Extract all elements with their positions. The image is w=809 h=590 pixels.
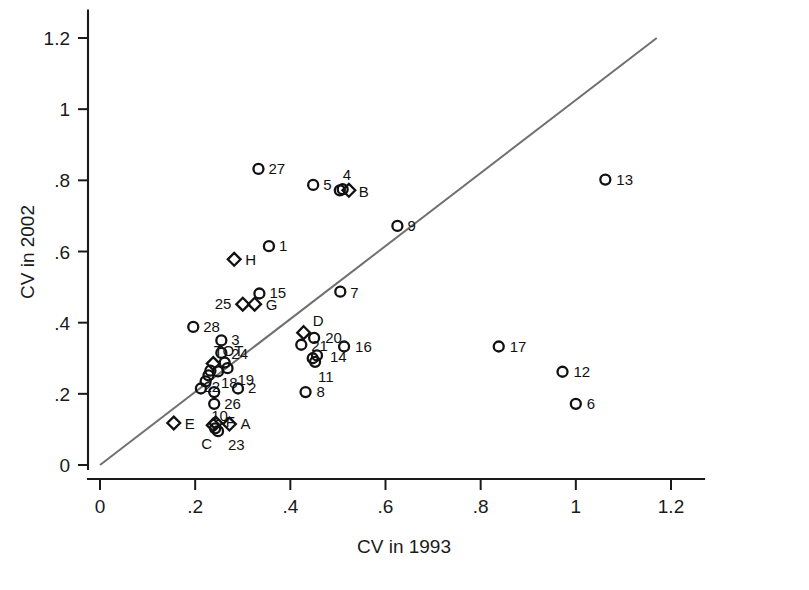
y-tick-label: .2 (54, 384, 70, 405)
y-tick-label: 1.2 (44, 28, 70, 49)
circle-marker[interactable] (301, 387, 311, 397)
circle-marker[interactable] (571, 399, 581, 409)
point-label: 11 (318, 368, 334, 385)
chart-axes (88, 11, 704, 479)
point-label: 25 (215, 295, 232, 312)
point-label: C (201, 435, 212, 452)
point-label: TOT (214, 342, 244, 359)
point-label: 26 (224, 395, 241, 412)
point-label: 28 (203, 318, 220, 335)
point-label: G (266, 296, 278, 313)
circle-marker[interactable] (392, 221, 402, 231)
point-label: 4 (343, 166, 351, 183)
point-label: D (313, 312, 324, 329)
scatter-chart: 0.2.4.6.811.20.2.4.6.811.2 1234567891011… (0, 0, 809, 590)
point-label: 9 (407, 217, 415, 234)
point-label: 27 (268, 160, 285, 177)
plot-canvas: 0.2.4.6.811.20.2.4.6.811.2 1234567891011… (0, 0, 809, 590)
point-label: 22 (203, 378, 220, 395)
x-tick-label: .6 (378, 496, 394, 517)
point-label: H (245, 251, 256, 268)
point-label: E (185, 415, 195, 432)
point-label: 19 (238, 371, 255, 388)
point-label: B (359, 183, 369, 200)
point-label: 13 (616, 171, 633, 188)
circle-marker[interactable] (188, 322, 198, 332)
circle-marker[interactable] (264, 241, 274, 251)
y-tick-label: 1 (59, 99, 70, 120)
y-tick-label: .8 (54, 170, 70, 191)
point-label: 12 (574, 363, 591, 380)
axis-tick-labels: 0.2.4.6.811.20.2.4.6.811.2 (44, 28, 685, 517)
diamond-marker[interactable] (228, 253, 241, 266)
point-label: A (240, 415, 250, 432)
point-label: 7 (350, 284, 358, 301)
y-tick-label: .4 (54, 313, 70, 334)
point-label: 18 (221, 374, 238, 391)
y-axis-title: CV in 2002 (17, 205, 38, 299)
point-label: 8 (317, 383, 325, 400)
circle-marker[interactable] (558, 367, 568, 377)
point-label: F (226, 413, 235, 430)
point-label: 1 (279, 237, 287, 254)
x-tick-label: 0 (95, 496, 106, 517)
diamond-marker[interactable] (167, 417, 180, 430)
x-tick-label: .2 (187, 496, 203, 517)
point-label: 5 (323, 176, 331, 193)
x-tick-label: 1 (571, 496, 582, 517)
circle-marker[interactable] (254, 288, 264, 298)
x-tick-label: .4 (282, 496, 298, 517)
point-label: 6 (587, 395, 595, 412)
x-tick-label: .8 (473, 496, 489, 517)
y-tick-label: .6 (54, 242, 70, 263)
point-label: 17 (510, 338, 527, 355)
x-tick-label: 1.2 (658, 496, 684, 517)
point-label: 21 (311, 337, 328, 354)
y-tick-label: 0 (59, 455, 70, 476)
point-label: 16 (355, 338, 372, 355)
point-label: 23 (228, 436, 245, 453)
circle-marker[interactable] (600, 175, 610, 185)
circle-marker[interactable] (335, 287, 345, 297)
x-axis-title: CV in 1993 (357, 536, 451, 557)
circle-marker[interactable] (253, 164, 263, 174)
circle-marker[interactable] (494, 342, 504, 352)
point-label: 14 (330, 348, 347, 365)
circle-marker[interactable] (296, 340, 306, 350)
circle-marker[interactable] (308, 180, 318, 190)
